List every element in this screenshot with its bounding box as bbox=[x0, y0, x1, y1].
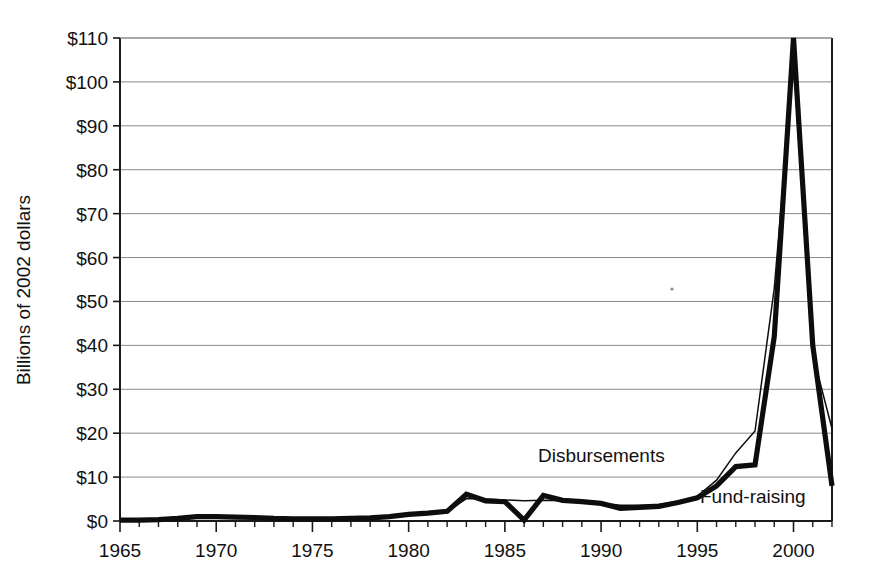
y-tick-label-80: $80 bbox=[76, 160, 108, 181]
x-tick-label-1980: 1980 bbox=[388, 540, 430, 561]
y-tick-label-40: $40 bbox=[76, 335, 108, 356]
chart-figure: $0$10$20$30$40$50$60$70$80$90$100$110 19… bbox=[0, 0, 872, 584]
y-tick-label-10: $10 bbox=[76, 467, 108, 488]
y-tick-label-90: $90 bbox=[76, 116, 108, 137]
x-tick-label-1995: 1995 bbox=[676, 540, 718, 561]
line-chart-svg: $0$10$20$30$40$50$60$70$80$90$100$110 19… bbox=[0, 0, 872, 584]
y-tick-label-20: $20 bbox=[76, 423, 108, 444]
y-tick-label-30: $30 bbox=[76, 379, 108, 400]
y-tick-label-100: $100 bbox=[66, 72, 108, 93]
scan-speck bbox=[670, 287, 673, 290]
series-label-disbursements: Disbursements bbox=[538, 445, 665, 466]
x-tick-label-1990: 1990 bbox=[580, 540, 622, 561]
x-tick-label-1965: 1965 bbox=[99, 540, 141, 561]
y-axis-title: Billions of 2002 dollars bbox=[13, 195, 34, 385]
y-tick-label-70: $70 bbox=[76, 204, 108, 225]
y-tick-label-0: $0 bbox=[87, 511, 108, 532]
x-tick-label-1975: 1975 bbox=[291, 540, 333, 561]
y-tick-label-50: $50 bbox=[76, 291, 108, 312]
x-tick-label-1985: 1985 bbox=[484, 540, 526, 561]
series-label-fundraising: Fund-raising bbox=[700, 486, 806, 507]
y-tick-label-110: $110 bbox=[67, 28, 108, 49]
x-tick-label-2000: 2000 bbox=[772, 540, 814, 561]
y-tick-label-60: $60 bbox=[76, 248, 108, 269]
x-tick-label-1970: 1970 bbox=[195, 540, 237, 561]
